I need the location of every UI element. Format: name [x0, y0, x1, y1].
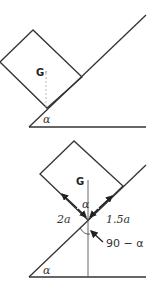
dimension-arrow-right-tip	[90, 209, 98, 217]
center-of-mass-dot	[45, 71, 47, 73]
center-of-mass-label: G	[36, 67, 44, 78]
angle-label: α	[43, 113, 51, 126]
bottom-diagram: G α 2a 1.5a 90 − α α	[29, 141, 146, 277]
diagram-canvas: G α G α 2a 1.5a 90 − α α	[0, 0, 165, 300]
angle-label-vertical: α	[82, 198, 90, 211]
angle-arc	[80, 228, 90, 234]
dimension-arrow-left	[62, 194, 77, 208]
dimension-label-left: 2a	[56, 213, 71, 226]
angle-complement-label: 90 − α	[106, 237, 143, 250]
top-diagram: G α	[0, 15, 146, 127]
dimension-arrow-right	[99, 196, 112, 208]
dimension-label-right: 1.5a	[106, 213, 130, 226]
center-of-mass-dot	[87, 180, 89, 182]
incline-line	[29, 15, 146, 127]
angle-pointer-arrow	[91, 231, 103, 242]
angle-label-incline: α	[43, 264, 51, 277]
center-of-mass-label: G	[76, 176, 84, 187]
